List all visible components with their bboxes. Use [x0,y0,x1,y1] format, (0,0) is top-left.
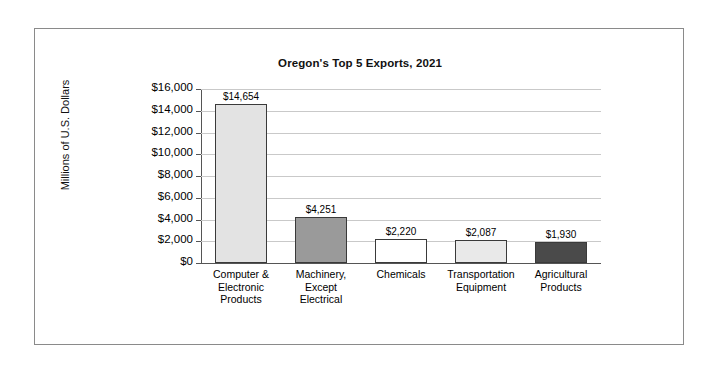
y-axis-tick-mark [196,220,201,221]
x-axis-category-label: TransportationEquipment [436,268,526,293]
y-axis-tick-label: $10,000 [113,146,193,158]
y-axis-tick-mark [196,111,201,112]
chart-frame: Oregon's Top 5 Exports, 2021 Millions of… [34,28,684,345]
x-axis-category-label-line: Computer & [196,268,286,281]
bar-value-label: $2,087 [441,227,521,238]
x-axis-category-label-line: Machinery, [276,268,366,281]
y-axis-tick-label: $8,000 [113,168,193,180]
y-axis-tick-label: $4,000 [113,212,193,224]
x-axis-category-label: Chemicals [356,268,446,281]
y-axis-tick-mark [196,241,201,242]
y-axis-tick-mark [196,198,201,199]
y-axis-tick-label: $14,000 [113,103,193,115]
x-axis-category-label-line: Electronic [196,281,286,294]
x-axis-category-label-line: Chemicals [356,268,446,281]
bar[interactable] [215,104,267,263]
y-axis-tick-mark [196,154,201,155]
bar-value-label: $2,220 [361,226,441,237]
y-axis-tick-label: $16,000 [113,81,193,93]
x-axis-category-label: Machinery,ExceptElectrical [276,268,366,306]
x-axis-category-label-line: Products [516,281,606,294]
bar-value-label: $4,251 [281,204,361,215]
x-axis-category-label-line: Electrical [276,293,366,306]
y-axis-tick-label: $0 [113,255,193,267]
y-axis-tick-labels: $16,000$14,000$12,000$10,000$8,000$6,000… [107,29,193,346]
y-axis-tick-mark [196,263,201,264]
y-axis-tick-label: $2,000 [113,233,193,245]
bar[interactable] [295,217,347,263]
bar-value-label: $14,654 [201,91,281,102]
x-axis-category-label-line: Except [276,281,366,294]
x-axis-baseline [201,263,601,264]
x-axis-category-label-line: Equipment [436,281,526,294]
x-axis-category-label: AgriculturalProducts [516,268,606,293]
bar[interactable] [535,242,587,263]
y-axis-tick-mark [196,133,201,134]
x-axis-category-label-line: Transportation [436,268,526,281]
y-axis-tick-label: $6,000 [113,190,193,202]
bar-value-label: $1,930 [521,229,601,240]
y-axis-tick-label: $12,000 [113,125,193,137]
bar[interactable] [455,240,507,263]
x-axis-category-label-line: Agricultural [516,268,606,281]
x-axis-category-label-line: Products [196,293,286,306]
x-axis-category-label: Computer &ElectronicProducts [196,268,286,306]
y-axis-title: Millions of U.S. Dollars [59,60,71,210]
bar[interactable] [375,239,427,263]
y-axis-tick-mark [196,176,201,177]
